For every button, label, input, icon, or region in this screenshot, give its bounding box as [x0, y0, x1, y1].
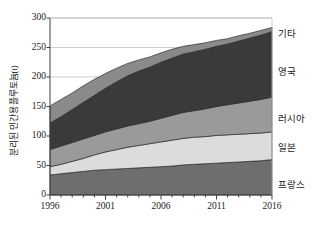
plot-area — [0, 0, 321, 231]
y-tick-label: 0 — [18, 190, 46, 200]
y-axis-tick-labels: 050100150200250300 — [16, 0, 46, 231]
x-tick-label: 2001 — [86, 202, 126, 212]
y-tick-label: 300 — [18, 13, 46, 23]
x-axis-tick-labels: 19962001200620112016 — [0, 202, 321, 218]
y-tick-label: 100 — [18, 131, 46, 141]
stacked-area-chart: 분리된 민간용 플루토늄(t) 050100150200250300 19962… — [0, 0, 321, 231]
series-label-기타: 기타 — [278, 30, 296, 40]
y-tick-label: 150 — [18, 102, 46, 112]
x-tick-label: 2006 — [141, 202, 181, 212]
series-label-프랑스: 프랑스 — [278, 181, 305, 191]
series-label-영국: 영국 — [278, 68, 296, 78]
y-tick-label: 250 — [18, 43, 46, 53]
x-tick-label: 1996 — [30, 202, 70, 212]
series-label-러시아: 러시아 — [278, 115, 305, 125]
x-tick-label: 2011 — [197, 202, 237, 212]
series-label-일본: 일본 — [278, 144, 296, 154]
x-tick-label: 2016 — [252, 202, 292, 212]
y-tick-label: 200 — [18, 72, 46, 82]
y-tick-label: 50 — [18, 161, 46, 171]
